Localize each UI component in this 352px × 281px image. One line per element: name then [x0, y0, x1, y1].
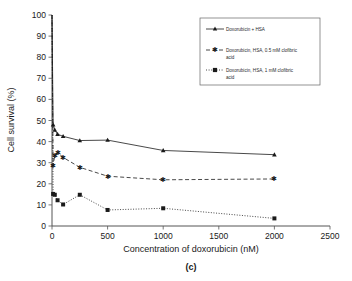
- legend-label-1: Doxorubicin, HSA, 0.5 mM clofibric: [226, 48, 298, 53]
- y-tick-label-100: 100: [32, 10, 46, 20]
- y-tick-label-0: 0: [41, 221, 46, 231]
- data-point-marker: [272, 216, 276, 220]
- data-point-marker: [56, 198, 60, 202]
- x-axis-ticks: 05001000150020002500: [50, 226, 340, 241]
- chart-legend: Doxorubicin + HSA ✱ Doxorubicin, HSA, 0.…: [200, 18, 320, 85]
- legend-label-2-cont: acid: [226, 75, 235, 80]
- y-tick-label-10: 10: [37, 200, 47, 210]
- data-point-marker: ✱: [105, 173, 111, 180]
- data-point-marker: [161, 206, 165, 210]
- legend-marker-square: [213, 68, 217, 72]
- data-point-marker: ✱: [160, 176, 166, 183]
- y-tick-label-40: 40: [37, 137, 47, 147]
- y-tick-label-70: 70: [37, 73, 47, 83]
- data-point-marker: [106, 208, 110, 212]
- data-point-marker: ✱: [271, 175, 277, 182]
- y-axis-ticks: 0102030405060708090100: [32, 10, 52, 231]
- data-point-marker: [53, 193, 57, 197]
- y-tick-label-60: 60: [37, 94, 47, 104]
- data-point-marker: [61, 202, 65, 206]
- data-point-marker: ✱: [60, 154, 66, 161]
- x-tick-label-500: 500: [101, 231, 115, 241]
- legend-label-1-cont: acid: [226, 55, 235, 60]
- y-tick-label-80: 80: [37, 52, 47, 62]
- y-axis-title: Cell survival (%): [6, 87, 16, 152]
- legend-label-2: Doxorubicin, HSA, 1 mM clofibric: [226, 68, 294, 73]
- legend-marker-asterisk: ✱: [212, 46, 218, 53]
- x-tick-label-0: 0: [50, 231, 55, 241]
- y-tick-label-90: 90: [37, 31, 47, 41]
- x-tick-label-1000: 1000: [154, 231, 173, 241]
- data-point-marker: ✱: [77, 164, 83, 171]
- x-tick-label-1500: 1500: [209, 231, 228, 241]
- data-point-marker: [78, 193, 82, 197]
- legend-label-0: Doxorubicin + HSA: [226, 27, 266, 32]
- figure-panel: 0102030405060708090100 05001000150020002…: [0, 0, 352, 281]
- x-tick-label-2000: 2000: [265, 231, 284, 241]
- y-tick-label-50: 50: [37, 116, 47, 126]
- y-tick-label-20: 20: [37, 179, 47, 189]
- figure-caption: (c): [186, 262, 197, 272]
- y-tick-label-30: 30: [37, 158, 47, 168]
- chart-plot: 0102030405060708090100 05001000150020002…: [0, 0, 352, 281]
- x-tick-label-2500: 2500: [321, 231, 340, 241]
- x-axis-title: Concentration of doxorubicin (nM): [123, 244, 259, 254]
